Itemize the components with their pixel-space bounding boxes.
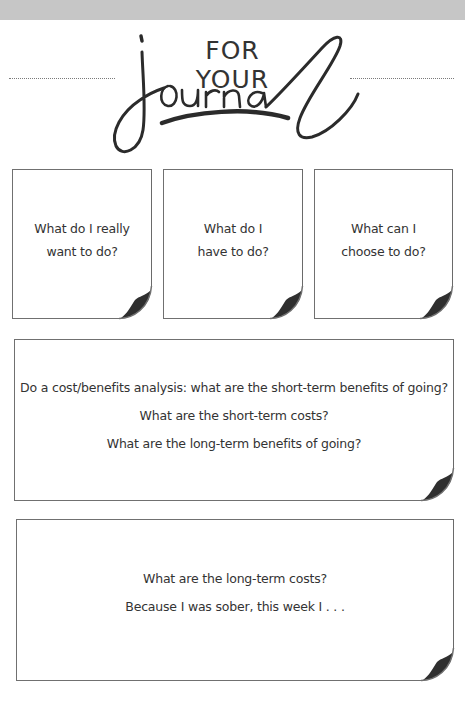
prompt-line: What are the long-term benefits of going… xyxy=(20,430,448,458)
prompt-line: have to do? xyxy=(197,240,268,263)
prompt-line: What are the long-term costs? xyxy=(125,565,344,593)
prompt-line: What are the short-term costs? xyxy=(20,402,448,430)
journal-script-lettering xyxy=(0,0,465,165)
prompt-line: What can I xyxy=(341,217,425,240)
page-curl-icon xyxy=(119,286,153,320)
prompt-card-choose-to[interactable]: What can I choose to do? xyxy=(314,169,453,319)
prompt-line: What do I xyxy=(197,217,268,240)
prompt-text: What are the long-term costs? Because I … xyxy=(125,565,344,621)
prompt-text: What do I really want to do? xyxy=(34,217,129,263)
page-curl-icon xyxy=(270,286,304,320)
prompt-card-cost-benefits[interactable]: Do a cost/benefits analysis: what are th… xyxy=(14,339,454,501)
page-curl-icon xyxy=(420,286,454,320)
prompt-line: Do a cost/benefits analysis: what are th… xyxy=(20,374,448,402)
prompt-line: Because I was sober, this week I . . . xyxy=(125,593,344,621)
prompt-card-have-to[interactable]: What do I have to do? xyxy=(163,169,303,319)
prompt-line: want to do? xyxy=(34,240,129,263)
prompt-card-long-term-costs[interactable]: What are the long-term costs? Because I … xyxy=(16,519,454,681)
prompt-line: What do I really xyxy=(34,217,129,240)
page-curl-icon xyxy=(421,648,455,682)
prompt-text: What do I have to do? xyxy=(197,217,268,263)
page-curl-icon xyxy=(421,468,455,502)
prompt-text: Do a cost/benefits analysis: what are th… xyxy=(20,374,448,458)
prompt-text: What can I choose to do? xyxy=(341,217,425,263)
prompt-line: choose to do? xyxy=(341,240,425,263)
journal-header: FOR YOUR journal xyxy=(0,0,465,165)
prompt-card-really-want[interactable]: What do I really want to do? xyxy=(12,169,152,319)
